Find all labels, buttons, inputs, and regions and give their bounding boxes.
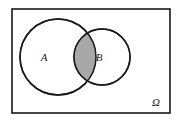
set-label-a: A — [40, 51, 48, 63]
venn-diagram-figure: A B Ω — [0, 0, 178, 123]
omega-symbol: Ω — [152, 96, 160, 108]
set-label-b: B — [96, 51, 103, 63]
venn-diagram-canvas: A B Ω — [0, 0, 178, 123]
